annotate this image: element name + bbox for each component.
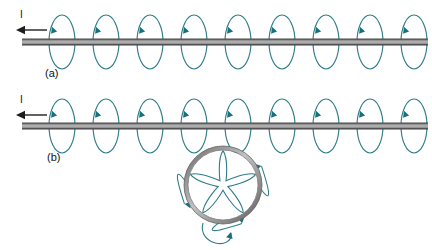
field-direction-arrow: [95, 27, 101, 34]
field-direction-arrow: [315, 111, 321, 118]
field-direction-arrow: [227, 111, 233, 118]
field-direction-arrow: [271, 27, 277, 34]
current-label-a: I: [20, 9, 23, 20]
magnetic-field-diagram: I (a) I (b): [0, 0, 432, 250]
panel-label-a: (a): [45, 67, 58, 79]
field-direction-arrow: [359, 111, 365, 118]
field-direction-arrow: [51, 27, 57, 34]
field-direction-arrow: [227, 27, 233, 34]
field-direction-arrow: [315, 27, 321, 34]
panel-a: [16, 15, 428, 69]
loop-lower-field-line: [202, 223, 231, 244]
field-direction-arrow: [95, 111, 101, 118]
field-direction-arrow: [51, 111, 57, 118]
wire-body: [22, 123, 428, 129]
field-direction-arrow: [183, 111, 189, 118]
loop-field-petal: [203, 190, 243, 213]
field-direction-arrow: [139, 27, 145, 34]
figure-canvas: I (a) I (b): [0, 0, 432, 250]
field-direction-arrow: [359, 27, 365, 34]
loop-field-petal: [223, 151, 256, 181]
current-loop-outer-edge: [184, 146, 262, 224]
wire-body: [22, 39, 428, 45]
field-direction-arrow: [403, 27, 409, 34]
current-loop-group: [177, 146, 268, 244]
field-direction-arrow: [183, 27, 189, 34]
field-direction-arrow: [139, 111, 145, 118]
current-loop-ring: [186, 148, 260, 222]
current-arrow-head: [16, 26, 25, 34]
field-direction-arrow: [271, 111, 277, 118]
current-arrow-head: [16, 111, 25, 119]
panel-b: [16, 99, 428, 244]
current-loop-inner-edge: [188, 150, 258, 220]
loop-lower-field-arrow: [226, 232, 232, 239]
field-direction-arrow: [403, 111, 409, 118]
panel-label-b: (b): [47, 151, 60, 163]
loop-field-petal: [190, 151, 223, 181]
current-label-b: I: [20, 94, 23, 105]
